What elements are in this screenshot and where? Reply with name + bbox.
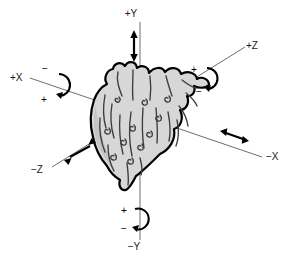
x-rotation-marker: − + — [41, 63, 70, 105]
y-translation-arrow — [130, 30, 137, 62]
diagram-canvas: +Y −Y +X −X +Z −Z − — [0, 0, 287, 260]
y-rotation-plus-sign: + — [121, 205, 127, 216]
axis-label-plus-z: +Z — [246, 40, 258, 51]
axis-label-plus-x: +X — [10, 72, 23, 83]
heart-illustration — [91, 62, 209, 190]
z-rotation-plus-sign: + — [191, 64, 197, 75]
x-rotation-minus-sign: − — [42, 63, 48, 74]
z-translation-arrow — [64, 138, 96, 165]
y-rotation-marker: + − — [121, 205, 149, 234]
z-rotation-minus-sign: − — [196, 86, 202, 97]
x-rotation-plus-sign: + — [41, 94, 47, 105]
axis-label-minus-y: −Y — [128, 241, 141, 252]
axis-label-minus-z: −Z — [31, 164, 43, 175]
axis-label-minus-x: −X — [266, 151, 279, 162]
axis-label-plus-y: +Y — [125, 8, 138, 19]
y-rotation-minus-sign: − — [121, 223, 127, 234]
x-translation-arrow — [220, 128, 249, 143]
